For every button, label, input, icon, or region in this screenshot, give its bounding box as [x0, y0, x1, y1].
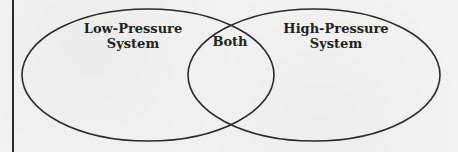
low-pressure-label-line2: System: [78, 36, 188, 51]
high-pressure-label: High-Pressure System: [281, 21, 391, 51]
both-label: Both: [205, 34, 255, 49]
high-pressure-label-line2: System: [281, 36, 391, 51]
low-pressure-label-line1: Low-Pressure: [78, 21, 188, 36]
high-pressure-label-line1: High-Pressure: [281, 21, 391, 36]
low-pressure-label: Low-Pressure System: [78, 21, 188, 51]
